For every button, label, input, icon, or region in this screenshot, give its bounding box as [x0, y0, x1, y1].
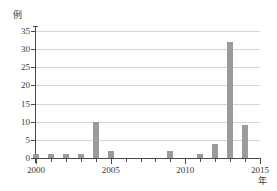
- y-tick-label: 0: [4, 154, 30, 163]
- bar: [48, 154, 54, 158]
- x-tick-label: 2010: [176, 166, 194, 175]
- x-tick-mark-minor: [230, 159, 231, 162]
- bar: [108, 151, 114, 158]
- x-tick-mark-minor: [126, 159, 127, 162]
- y-tick-mark: [31, 85, 36, 86]
- y-tick-mark: [31, 67, 36, 68]
- x-tick-label: 2015: [251, 166, 269, 175]
- bar: [242, 125, 248, 158]
- y-tick-mark: [31, 158, 36, 159]
- x-tick-mark-minor: [96, 159, 97, 162]
- x-tick-mark-minor: [141, 159, 142, 162]
- x-tick-mark-minor: [51, 159, 52, 162]
- x-tick-mark-minor: [155, 159, 156, 162]
- x-tick-label: 2005: [102, 166, 120, 175]
- bar: [212, 144, 218, 159]
- x-axis-title: 年: [258, 177, 267, 186]
- y-axis-tick-labels: 05101520253035: [0, 0, 30, 191]
- y-tick-mark: [31, 104, 36, 105]
- x-tick-mark-minor: [215, 159, 216, 162]
- bar: [197, 154, 203, 158]
- bar: [93, 122, 99, 158]
- y-tick-mark: [31, 31, 36, 32]
- y-tick-label: 5: [4, 136, 30, 145]
- x-tick-mark-major: [111, 159, 112, 164]
- plot-area: [36, 31, 260, 158]
- bar: [227, 42, 233, 158]
- bar-chart: 例 05101520253035 2000200520102015 年: [0, 0, 277, 191]
- y-tick-label: 10: [4, 118, 30, 127]
- y-tick-mark: [31, 140, 36, 141]
- bar: [167, 151, 173, 158]
- y-tick-label: 35: [4, 27, 30, 36]
- x-tick-mark-minor: [81, 159, 82, 162]
- y-axis-cap: [33, 26, 38, 27]
- gridline: [36, 31, 260, 32]
- x-tick-mark-minor: [66, 159, 67, 162]
- y-tick-label: 25: [4, 63, 30, 72]
- y-tick-mark: [31, 122, 36, 123]
- y-tick-label: 15: [4, 100, 30, 109]
- x-tick-mark-minor: [200, 159, 201, 162]
- x-tick-label: 2000: [27, 166, 45, 175]
- bar: [78, 154, 84, 158]
- x-tick-mark-major: [260, 159, 261, 164]
- y-tick-label: 20: [4, 81, 30, 90]
- bar: [63, 154, 69, 158]
- x-axis-line: [36, 158, 261, 159]
- x-tick-mark-minor: [245, 159, 246, 162]
- x-tick-mark-major: [185, 159, 186, 164]
- y-tick-mark: [31, 49, 36, 50]
- x-tick-mark-major: [36, 159, 37, 164]
- x-tick-mark-minor: [170, 159, 171, 162]
- y-tick-label: 30: [4, 45, 30, 54]
